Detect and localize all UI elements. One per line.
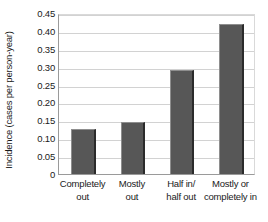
y-axis-tick-1: 0.40 xyxy=(37,27,55,37)
x-axis-label-3: Mostly orcompletely in xyxy=(200,178,261,203)
y-axis-tick-6: 0.15 xyxy=(37,116,55,126)
y-axis-tick-labels: 0.450.400.350.300.250.200.150.100.050 xyxy=(17,0,57,222)
y-axis-title: Incidence (cases per person-year) xyxy=(2,10,16,190)
bar-chart: Incidence (cases per person-year) 0.450.… xyxy=(0,0,268,222)
bar xyxy=(71,129,96,174)
bar-slot-0 xyxy=(71,15,96,174)
bar-slot-3 xyxy=(219,15,244,174)
bar xyxy=(121,122,146,174)
y-axis-tick-2: 0.35 xyxy=(37,45,55,55)
plot-area xyxy=(58,14,255,175)
y-axis-tick-5: 0.20 xyxy=(37,98,55,108)
x-axis-label-line: completely in xyxy=(200,191,261,204)
bar xyxy=(219,24,244,174)
bar xyxy=(170,70,195,174)
x-axis-label-line: Mostly or xyxy=(200,178,261,191)
y-axis-tick-0: 0.45 xyxy=(37,9,55,19)
y-axis-tick-7: 0.10 xyxy=(37,134,55,144)
bar-slot-2 xyxy=(170,15,195,174)
y-axis-tick-8: 0.05 xyxy=(37,152,55,162)
y-axis-tick-3: 0.30 xyxy=(37,63,55,73)
y-axis-tick-4: 0.25 xyxy=(37,81,55,91)
bar-slot-1 xyxy=(121,15,146,174)
bar-series xyxy=(59,15,254,174)
x-axis-category-labels: CompletelyoutMostlyoutHalf in/half outMo… xyxy=(58,178,255,222)
